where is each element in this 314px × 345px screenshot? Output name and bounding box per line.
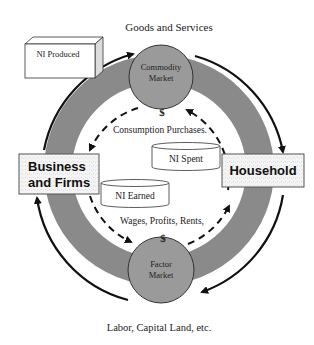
commodity-market-line2: Market	[149, 73, 174, 83]
factor-market: Factor Market	[128, 237, 194, 303]
household-label: Household	[229, 163, 296, 178]
labor-capital-land-title: Labor, Capital Land, etc.	[107, 322, 212, 333]
wages-profits-rents-label: Wages, Profits, Rents,	[120, 216, 204, 226]
dollar-sign-top: $	[159, 106, 165, 118]
consumption-purchases-label: Consumption Purchases.	[113, 125, 207, 135]
ni-produced-box: NI Produced	[25, 37, 103, 78]
circular-flow-diagram: Commodity Market Factor Market Business …	[0, 0, 314, 345]
factor-market-line2: Market	[149, 270, 174, 280]
ni-produced-label: NI Produced	[36, 49, 80, 59]
business-line2: and Firms	[28, 175, 90, 190]
factor-market-line1: Factor	[150, 259, 172, 269]
commodity-market-line1: Commodity	[141, 62, 182, 72]
business-line1: Business	[28, 159, 86, 174]
business-and-firms-box: Business and Firms	[19, 154, 99, 194]
dollar-sign-bottom: $	[160, 232, 166, 244]
ni-earned-cylinder: NI Earned	[101, 180, 169, 208]
ni-earned-label: NI Earned	[115, 191, 155, 201]
commodity-market: Commodity Market	[129, 45, 193, 109]
goods-and-services-title: Goods and Services	[125, 21, 212, 33]
household-box: Household	[222, 154, 304, 187]
ni-spent-label: NI Spent	[169, 154, 203, 164]
ni-spent-cylinder: NI Spent	[152, 143, 220, 171]
